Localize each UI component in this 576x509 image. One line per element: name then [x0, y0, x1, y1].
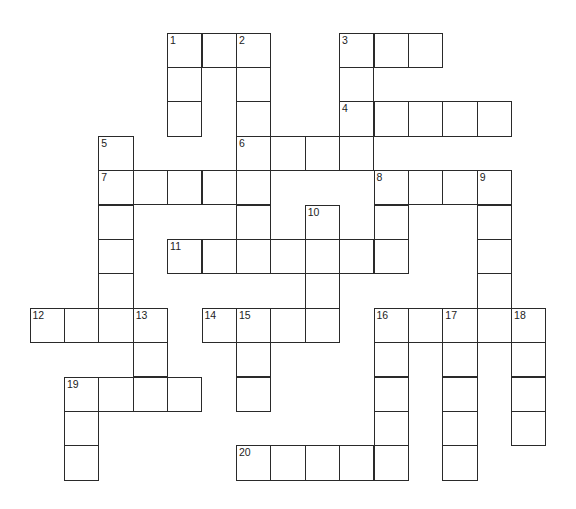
crossword-cell[interactable]: 10 [305, 205, 340, 240]
crossword-cell[interactable]: 6 [236, 136, 271, 171]
crossword-cell[interactable] [305, 273, 340, 308]
crossword-cell[interactable] [98, 308, 133, 343]
crossword-cell[interactable] [202, 239, 237, 274]
crossword-cell[interactable] [202, 170, 237, 205]
crossword-cell[interactable] [477, 239, 512, 274]
crossword-cell[interactable] [202, 33, 237, 68]
crossword-cell[interactable] [98, 377, 133, 412]
crossword-cell[interactable]: 7 [98, 170, 133, 205]
clue-number: 8 [377, 172, 383, 183]
crossword-cell[interactable] [64, 445, 99, 480]
crossword-cell[interactable]: 16 [374, 308, 409, 343]
crossword-cell[interactable] [270, 136, 305, 171]
crossword-cell[interactable] [236, 101, 271, 136]
crossword-cell[interactable] [408, 33, 443, 68]
crossword-cell[interactable] [236, 67, 271, 102]
crossword-cell[interactable] [442, 101, 477, 136]
crossword-cell[interactable]: 9 [477, 170, 512, 205]
crossword-cell[interactable] [511, 377, 546, 412]
crossword-cell[interactable] [442, 445, 477, 480]
clue-number: 13 [136, 310, 148, 321]
crossword-cell[interactable] [374, 205, 409, 240]
clue-number: 12 [33, 310, 45, 321]
crossword-cell[interactable] [270, 445, 305, 480]
crossword-cell[interactable] [305, 308, 340, 343]
clue-number: 17 [445, 310, 457, 321]
crossword-cell[interactable] [305, 445, 340, 480]
crossword-cell[interactable]: 19 [64, 377, 99, 412]
crossword-cell[interactable] [374, 445, 409, 480]
crossword-cell[interactable] [339, 445, 374, 480]
crossword-cell[interactable] [236, 205, 271, 240]
crossword-cell[interactable]: 5 [98, 136, 133, 171]
crossword-cell[interactable]: 20 [236, 445, 271, 480]
crossword-cell[interactable] [339, 239, 374, 274]
crossword-cell[interactable] [236, 170, 271, 205]
crossword-cell[interactable] [98, 239, 133, 274]
crossword-cell[interactable] [167, 170, 202, 205]
crossword-cell[interactable]: 3 [339, 33, 374, 68]
crossword-cell[interactable] [408, 308, 443, 343]
crossword-cell[interactable] [305, 239, 340, 274]
clue-number: 5 [101, 138, 107, 149]
crossword-cell[interactable]: 8 [374, 170, 409, 205]
crossword-cell[interactable] [374, 33, 409, 68]
crossword-cell[interactable] [408, 101, 443, 136]
crossword-cell[interactable] [133, 377, 168, 412]
crossword-cell[interactable] [374, 411, 409, 446]
crossword-cell[interactable] [98, 205, 133, 240]
crossword-cell[interactable]: 13 [133, 308, 168, 343]
crossword-cell[interactable] [442, 170, 477, 205]
crossword-cell[interactable] [339, 67, 374, 102]
crossword-cell[interactable] [477, 308, 512, 343]
crossword-cell[interactable] [374, 101, 409, 136]
crossword-cell[interactable] [236, 342, 271, 377]
crossword-cell[interactable] [167, 67, 202, 102]
crossword-cell[interactable] [442, 411, 477, 446]
crossword-cell[interactable] [64, 411, 99, 446]
clue-number: 20 [239, 447, 251, 458]
crossword-cell[interactable]: 14 [202, 308, 237, 343]
crossword-cell[interactable] [305, 136, 340, 171]
crossword-cell[interactable] [511, 411, 546, 446]
crossword-cell[interactable]: 12 [30, 308, 65, 343]
crossword-cell[interactable]: 4 [339, 101, 374, 136]
crossword-cell[interactable] [477, 273, 512, 308]
clue-number: 18 [514, 310, 526, 321]
crossword-cell[interactable]: 18 [511, 308, 546, 343]
clue-number: 16 [377, 310, 389, 321]
crossword-cell[interactable] [511, 342, 546, 377]
crossword-cell[interactable] [167, 101, 202, 136]
crossword-cell[interactable] [374, 342, 409, 377]
crossword-cell[interactable] [408, 170, 443, 205]
crossword-cell[interactable]: 1 [167, 33, 202, 68]
crossword-cell[interactable] [442, 377, 477, 412]
clue-number: 3 [342, 35, 348, 46]
crossword-cell[interactable] [442, 342, 477, 377]
crossword-cell[interactable] [98, 273, 133, 308]
crossword-cell[interactable] [236, 377, 271, 412]
crossword-cell[interactable] [270, 239, 305, 274]
crossword-grid: 1234567891011121314151617181920 [0, 0, 576, 509]
crossword-cell[interactable] [133, 170, 168, 205]
crossword-cell[interactable] [374, 377, 409, 412]
crossword-cell[interactable] [270, 308, 305, 343]
crossword-cell[interactable] [167, 377, 202, 412]
crossword-cell[interactable] [339, 136, 374, 171]
crossword-cell[interactable]: 11 [167, 239, 202, 274]
crossword-cell[interactable] [64, 308, 99, 343]
clue-number: 15 [239, 310, 251, 321]
crossword-cell[interactable]: 17 [442, 308, 477, 343]
crossword-cell[interactable] [236, 239, 271, 274]
clue-number: 6 [239, 138, 245, 149]
crossword-cell[interactable] [477, 205, 512, 240]
crossword-cell[interactable] [133, 342, 168, 377]
clue-number: 4 [342, 103, 348, 114]
crossword-cell[interactable]: 15 [236, 308, 271, 343]
crossword-cell[interactable] [477, 101, 512, 136]
crossword-cell[interactable]: 2 [236, 33, 271, 68]
clue-number: 2 [239, 35, 245, 46]
crossword-cell[interactable] [374, 239, 409, 274]
clue-number: 1 [170, 35, 176, 46]
clue-number: 14 [205, 310, 217, 321]
